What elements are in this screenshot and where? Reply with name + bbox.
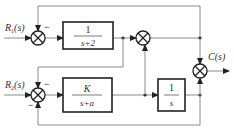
- block-g3: 1 s: [158, 79, 185, 111]
- g1-denominator: s+2: [81, 38, 96, 48]
- g3-denominator: s: [170, 98, 174, 108]
- g1-numerator: 1: [86, 24, 91, 35]
- block-g2: K s+a: [63, 78, 112, 112]
- block-g1: 1 s+2: [63, 22, 113, 49]
- summing-junction-s1: [31, 31, 45, 45]
- g3-numerator: 1: [169, 82, 174, 93]
- g2-numerator: K: [83, 83, 92, 94]
- summing-junction-s2: [136, 31, 150, 45]
- r2-label: R2(s): [4, 79, 25, 91]
- minus-sign-s4-bottom: −: [28, 100, 33, 110]
- minus-sign-s1-top: −: [44, 22, 49, 32]
- c-output-label: C(s): [208, 51, 226, 63]
- summing-junction-s3: [193, 64, 207, 78]
- block-diagram: − − − 1 s+2 K s+a 1 s R1(s) R2(s) C(s): [0, 0, 234, 137]
- minus-sign-s4-top: −: [44, 79, 49, 89]
- r1-label: R1(s): [4, 22, 25, 34]
- g2-denominator: s+a: [80, 98, 95, 108]
